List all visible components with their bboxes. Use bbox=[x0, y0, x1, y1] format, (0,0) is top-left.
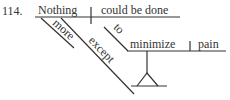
predicate-word: could be done bbox=[101, 3, 168, 17]
to-word: to bbox=[111, 20, 128, 37]
stand-triangle bbox=[137, 73, 158, 86]
minimize-word: minimize bbox=[130, 37, 175, 51]
more-word: more bbox=[50, 16, 78, 43]
subject-word: Nothing bbox=[38, 3, 77, 17]
sentence-diagram: 114. Nothing could be done more except t… bbox=[0, 0, 230, 100]
pain-word: pain bbox=[198, 37, 219, 51]
item-number: 114. bbox=[2, 4, 23, 18]
